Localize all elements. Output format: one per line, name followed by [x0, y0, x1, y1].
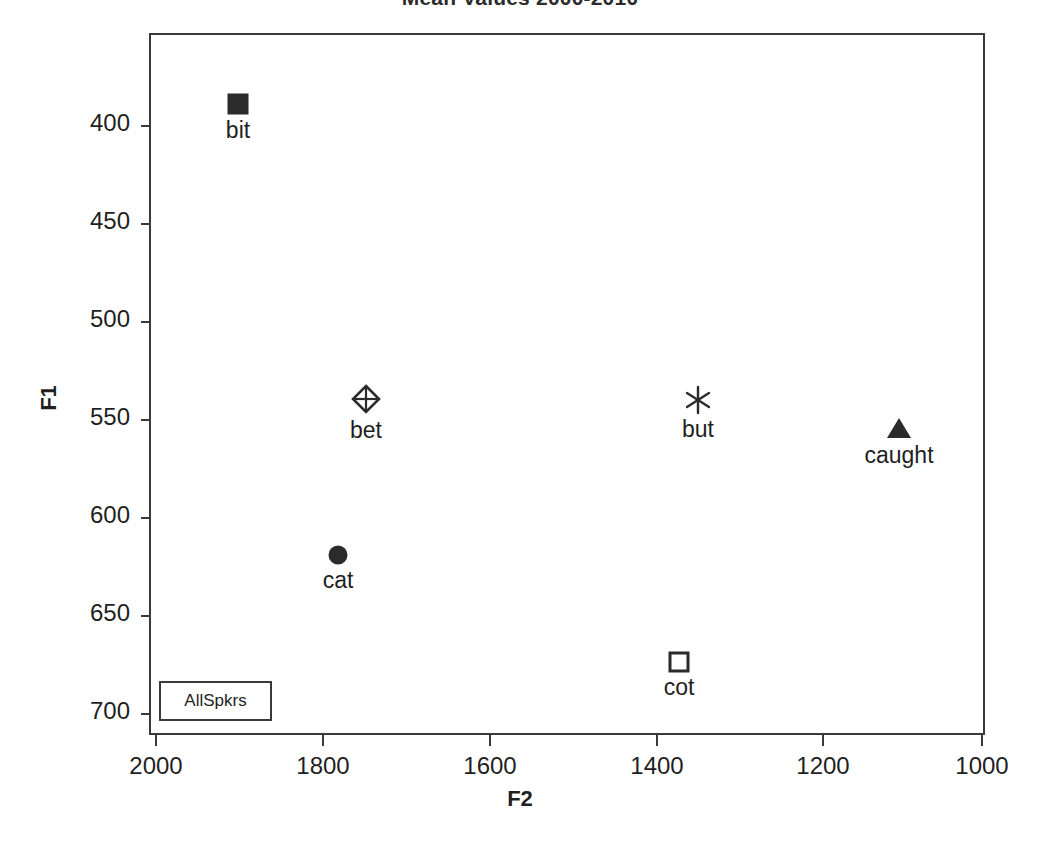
x-tick-mark [155, 735, 157, 746]
x-tick-mark [322, 735, 324, 746]
y-tick-label-text: 500 [60, 305, 130, 333]
filled-circle-marker-icon [329, 546, 348, 565]
open-square-marker-icon [669, 652, 690, 673]
y-tick-label-text: 400 [60, 109, 130, 137]
data-point-label: bet [350, 417, 382, 444]
y-tick-label-text: 550 [60, 403, 130, 431]
data-point-label: but [682, 416, 714, 443]
x-tick-mark [656, 735, 658, 746]
y-tick-label-text: 600 [60, 501, 130, 529]
x-tick-mark [489, 735, 491, 746]
y-tick-label-text: 650 [60, 599, 130, 627]
filled-triangle-marker-icon [886, 416, 912, 444]
x-tick-label: 1800 [268, 752, 378, 780]
plot-area [149, 33, 985, 735]
y-tick-label-text: 700 [60, 697, 130, 725]
data-point-label: bit [226, 117, 250, 144]
x-tick-mark [981, 735, 983, 746]
x-tick-label: 1000 [927, 752, 1037, 780]
chart-title: Mean Values 2000-2010 [0, 0, 1040, 10]
data-point-label: cot [664, 674, 695, 701]
legend-label: AllSpkrs [184, 691, 246, 711]
y-axis-title: F1 [36, 385, 62, 411]
legend[interactable]: AllSpkrs [159, 681, 272, 721]
data-point-label: caught [864, 442, 933, 469]
x-tick-label: 1400 [602, 752, 712, 780]
x-tick-label: 1200 [768, 752, 878, 780]
crossed-diamond-marker-icon [351, 384, 381, 418]
filled-square-marker-icon [228, 94, 249, 115]
asterisk-marker-icon [683, 385, 713, 419]
data-point-label: cat [323, 567, 354, 594]
y-tick-label-text: 450 [60, 207, 130, 235]
x-tick-mark [822, 735, 824, 746]
x-axis-title: F2 [0, 786, 1040, 812]
x-tick-label: 2000 [101, 752, 211, 780]
x-tick-label: 1600 [435, 752, 545, 780]
formant-scatter-chart: Mean Values 2000-2010 400 450 500 550 60… [0, 0, 1040, 841]
